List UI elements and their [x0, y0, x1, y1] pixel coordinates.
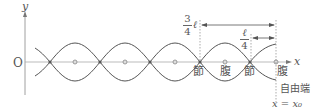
arrow-left-icon [201, 23, 207, 27]
ell-symbol: ℓ [193, 20, 197, 30]
fraction-numerator: 3 [184, 14, 190, 24]
x-axis-label: x [294, 56, 300, 67]
fraction-denominator: 4 [241, 41, 247, 51]
y-axis-label: y [22, 1, 28, 12]
arrow-left-icon [252, 36, 258, 40]
standing-wave-diagram [0, 0, 322, 112]
fraction-1-4: ℓ 4 [240, 28, 249, 51]
antinode-label-2: 腹 [277, 66, 288, 77]
free-end-label: 自由端 [280, 84, 310, 94]
x0-label: x = x₀ [272, 99, 302, 109]
x-axis-arrow-icon [286, 60, 292, 64]
fraction-3-4: 3 4 [183, 14, 192, 37]
antinode-label-1: 腹 [220, 66, 231, 77]
node-label-2: 節 [244, 66, 255, 77]
arrow-right-icon [269, 23, 275, 27]
node-label-1: 節 [193, 66, 204, 77]
fraction-numerator: ℓ [242, 28, 246, 38]
origin-label: O [13, 57, 23, 69]
fraction-denominator: 4 [184, 27, 190, 37]
arrow-right-icon [269, 36, 275, 40]
